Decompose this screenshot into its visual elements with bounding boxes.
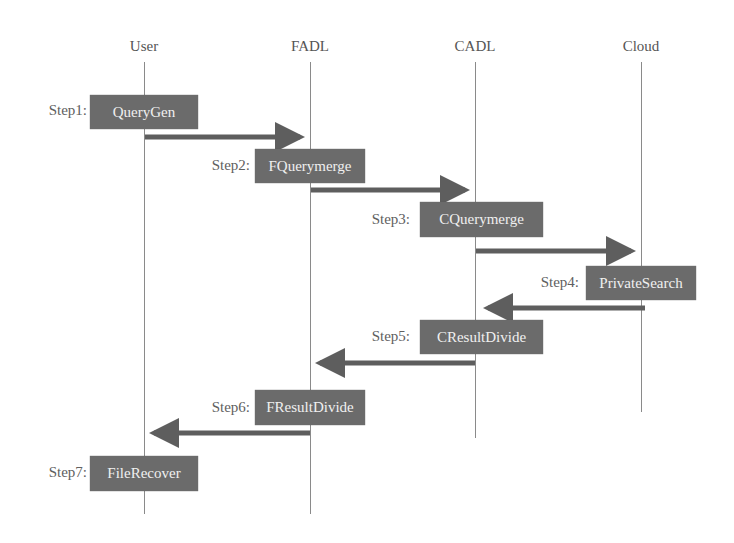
step-label-6: Step6: (212, 399, 250, 416)
step-box-fresultdivide: FResultDivide (255, 390, 365, 425)
step-label-4: Step4: (541, 274, 579, 291)
step-box-cresultdivide: CResultDivide (420, 320, 543, 354)
step-label-2: Step2: (212, 157, 250, 174)
step-box-querygen: QueryGen (90, 95, 198, 129)
step-label-3: Step3: (372, 211, 410, 228)
step-label-1: Step1: (49, 102, 87, 119)
step-label-5: Step5: (372, 328, 410, 345)
step-box-fquerymerge: FQuerymerge (255, 149, 365, 183)
step-box-filerecover: FileRecover (90, 456, 198, 491)
step-label-7: Step7: (49, 464, 87, 481)
step-box-cquerymerge: CQuerymerge (420, 202, 543, 237)
step-box-privatesearch: PrivateSearch (586, 266, 696, 300)
